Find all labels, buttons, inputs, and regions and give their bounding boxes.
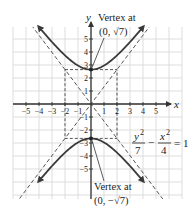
x-tick-label: −5 bbox=[22, 107, 31, 116]
eq-equals-one: = 1 bbox=[174, 137, 188, 149]
top-vertex-leader bbox=[92, 38, 104, 68]
bottom-vertex-leader bbox=[92, 140, 104, 181]
top-vertex-label-line1: Vertex at bbox=[98, 12, 136, 23]
bottom-vertex-label-line1: Vertex at bbox=[94, 181, 132, 192]
top-vertex-label-line2: (0, √7) bbox=[99, 26, 128, 38]
eq-minus: − bbox=[148, 136, 154, 148]
eq-denominator-7: 7 bbox=[135, 144, 141, 156]
x-tick-label: −4 bbox=[35, 107, 44, 116]
x-tick-label: 3 bbox=[128, 107, 132, 116]
y-tick-label: −2 bbox=[79, 126, 88, 135]
x-tick-label: 5 bbox=[154, 107, 158, 116]
y-tick-label: 2 bbox=[84, 74, 88, 83]
y-tick-label: −4 bbox=[79, 152, 88, 161]
y-tick-label: −5 bbox=[79, 165, 88, 174]
hyperbola-diagram: −5−4−3−2−11234554321−1−2−3−4−5 x y Verte… bbox=[0, 0, 194, 212]
bottom-vertex-label-line2: (0, −√7) bbox=[94, 195, 129, 207]
eq-numerator-y: y bbox=[133, 130, 139, 142]
top-vertex-point bbox=[89, 68, 93, 72]
x-axis-label: x bbox=[173, 98, 179, 110]
eq-numerator-x: x bbox=[159, 130, 165, 142]
bottom-vertex-point bbox=[89, 136, 93, 140]
eq-denominator-4: 4 bbox=[161, 144, 167, 156]
y-tick-label: −1 bbox=[79, 113, 88, 122]
eq-exp-left: 2 bbox=[140, 128, 144, 137]
x-tick-label: 1 bbox=[102, 107, 106, 116]
equation: y 2 7 − x 2 4 = 1 bbox=[132, 128, 188, 156]
y-tick-label: 1 bbox=[84, 87, 88, 96]
y-axis-label: y bbox=[85, 11, 91, 23]
x-tick-label: −3 bbox=[48, 107, 57, 116]
x-tick-label: −2 bbox=[61, 107, 70, 116]
x-tick-label: 4 bbox=[141, 107, 145, 116]
hyperbola-plot: −5−4−3−2−11234554321−1−2−3−4−5 x y Verte… bbox=[0, 0, 194, 212]
y-tick-label: 4 bbox=[84, 48, 88, 57]
x-tick-label: 2 bbox=[115, 107, 119, 116]
eq-exp-right: 2 bbox=[166, 128, 170, 137]
y-tick-label: 5 bbox=[84, 35, 88, 44]
